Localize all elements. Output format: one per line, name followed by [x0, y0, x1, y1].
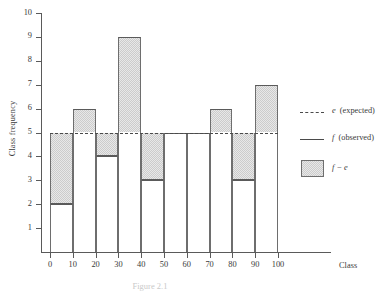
bar: [187, 133, 210, 253]
x-axis-tick: [118, 253, 119, 258]
difference-region: [73, 109, 96, 133]
legend-label-expected: e (expected): [332, 106, 375, 115]
y-axis-tick: [36, 228, 42, 229]
x-axis-title: Class: [339, 261, 357, 270]
x-axis-tick: [187, 253, 188, 258]
y-axis-tick: [36, 156, 42, 157]
y-axis-tick: [36, 133, 42, 134]
bar: [141, 180, 164, 252]
x-axis-tick: [232, 253, 233, 258]
bar: [50, 204, 73, 252]
y-axis-tick-label: 9: [12, 32, 32, 40]
plot-area: 12345678910 0102030405060708090100 Class: [50, 13, 278, 252]
y-axis-tick: [36, 61, 42, 62]
y-axis-tick-label: 6: [12, 104, 32, 112]
y-axis-tick-label: 4: [12, 152, 32, 160]
legend-symbol-expected: e: [332, 106, 336, 115]
y-axis-tick: [36, 37, 42, 38]
y-axis-tick-label: 10: [12, 9, 32, 17]
y-axis-tick: [36, 13, 42, 14]
dashed-line-icon: [300, 112, 324, 113]
x-axis-tick: [164, 253, 165, 258]
y-axis-tick-label: 5: [12, 128, 32, 136]
x-axis-tick: [50, 253, 51, 258]
x-axis-tick: [73, 253, 74, 258]
difference-region: [141, 133, 164, 181]
legend-symbol-difference: f − e: [332, 163, 348, 172]
difference-region: [210, 109, 233, 133]
chart-figure: Class frequency 12345678910 010203040506…: [0, 0, 392, 291]
y-axis-tick: [36, 109, 42, 110]
x-axis-tick: [96, 253, 97, 258]
legend-item-difference: f − e: [300, 158, 392, 192]
legend-symbol-observed: f: [332, 133, 334, 142]
legend-label-observed: f (observed): [332, 133, 374, 142]
expected-reference-line: [50, 133, 278, 134]
x-axis-tick: [141, 253, 142, 258]
y-axis-tick-label: 3: [12, 176, 32, 184]
solid-line-icon: [300, 139, 324, 140]
y-axis-tick: [36, 85, 42, 86]
bar: [96, 156, 119, 252]
legend-item-observed: f (observed): [300, 131, 392, 158]
legend-label-difference: f − e: [332, 163, 348, 172]
x-axis-tick: [210, 253, 211, 258]
y-axis-tick: [36, 204, 42, 205]
y-axis-tick-label: 2: [12, 200, 32, 208]
bar: [232, 180, 255, 252]
difference-region: [255, 85, 278, 133]
difference-region: [118, 37, 141, 133]
y-axis-tick-label: 1: [12, 224, 32, 232]
difference-region: [96, 133, 119, 157]
figure-caption: Figure 2.1: [0, 281, 300, 291]
x-axis-tick: [255, 253, 256, 258]
y-axis-tick: [36, 180, 42, 181]
y-axis-tick-label: 7: [12, 80, 32, 88]
legend-text-observed: (observed): [338, 133, 373, 142]
legend: e (expected) f (observed) f − e: [300, 104, 392, 192]
bar: [164, 133, 187, 253]
difference-region: [50, 133, 73, 205]
shaded-swatch-icon: [301, 160, 324, 177]
difference-region: [232, 133, 255, 181]
legend-text-expected: (expected): [340, 106, 375, 115]
y-axis-tick-label: 8: [12, 56, 32, 64]
x-axis-tick: [278, 253, 279, 258]
legend-item-expected: e (expected): [300, 104, 392, 131]
x-axis-tick-label: 100: [265, 261, 291, 269]
